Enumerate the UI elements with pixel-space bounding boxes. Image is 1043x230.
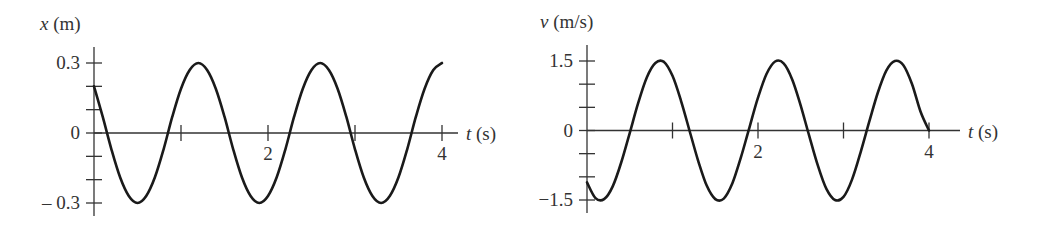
velocity-x-tick-label: 2 [753,141,763,162]
velocity-y-axis-title: v (m/s) [540,11,593,33]
position-x-axis-title: t (s) [466,123,496,145]
position-chart: – 0.300.324x (m)t (s) [39,13,496,216]
velocity-x-axis-title: t (s) [968,121,998,143]
position-x-tick-label: 2 [263,143,273,164]
chart-canvas: – 0.300.324x (m)t (s) −1.501.524v (m/s)t… [0,0,1043,230]
position-y-tick-label: – 0.3 [41,192,80,213]
position-y-unit: (m) [48,13,80,35]
position-x-tick-label: 4 [437,143,447,164]
velocity-y-tick-label: 1.5 [549,50,573,71]
velocity-chart: −1.501.524v (m/s)t (s) [539,11,999,213]
velocity-x-unit: (s) [973,121,998,143]
velocity-y-tick-label: 0 [564,120,574,141]
velocity-x-tick-label: 4 [924,141,934,162]
velocity-y-tick-label: −1.5 [539,189,573,210]
velocity-y-unit: (m/s) [548,11,593,33]
position-y-tick-label: 0.3 [56,52,80,73]
position-y-axis-title: x (m) [39,13,81,35]
position-x-unit: (s) [471,123,496,145]
position-y-tick-label: 0 [71,122,81,143]
